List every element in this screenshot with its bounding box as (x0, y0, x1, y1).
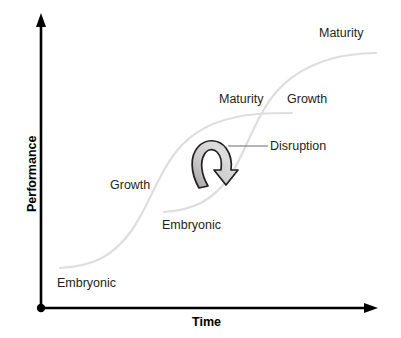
x-axis-title: Time (192, 316, 221, 329)
label-curve1-growth: Growth (110, 179, 150, 192)
arrow-right-icon (364, 303, 378, 313)
origin-dot (37, 304, 45, 312)
label-curve2-embryonic: Embryonic (162, 219, 221, 232)
curved-arrow-icon (192, 141, 238, 188)
label-curve2-maturity: Maturity (319, 27, 363, 40)
s-curve-first (60, 113, 292, 268)
label-curve2-growth: Growth (287, 93, 327, 106)
arrow-up-icon (36, 13, 46, 27)
label-curve1-maturity: Maturity (219, 93, 263, 106)
label-curve1-embryonic: Embryonic (57, 277, 116, 290)
y-axis-title: Performance (26, 136, 39, 212)
disruption-s-curve-diagram: Performance Time Embryonic Growth Maturi… (0, 0, 401, 338)
label-disruption: Disruption (270, 140, 326, 153)
